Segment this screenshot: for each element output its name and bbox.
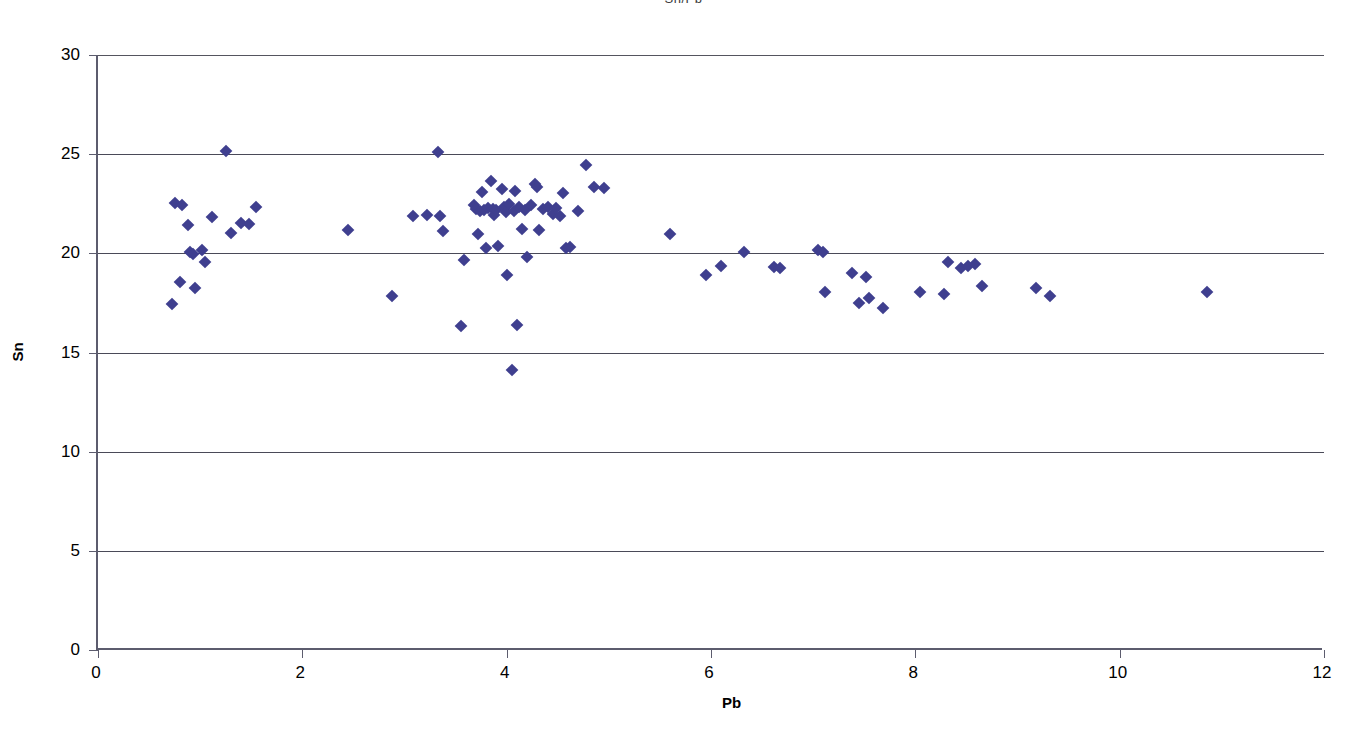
data-point — [224, 226, 237, 239]
x-tick-label-2: 2 — [270, 663, 330, 683]
y-tick-label-10: 10 — [20, 442, 80, 462]
data-point — [457, 254, 470, 267]
data-point — [774, 262, 787, 275]
gridline-y-30 — [98, 55, 1324, 56]
data-point — [876, 302, 889, 315]
gridline-y-20 — [98, 253, 1324, 254]
chart-title: Sn/Pb — [0, 0, 1367, 5]
data-point — [492, 240, 505, 253]
x-tick-12 — [1324, 650, 1325, 658]
data-point — [597, 182, 610, 195]
x-tick-4 — [507, 650, 508, 658]
data-point — [250, 200, 263, 213]
data-point — [199, 256, 212, 269]
y-tick-15 — [89, 353, 98, 354]
x-tick-label-8: 8 — [883, 663, 943, 683]
x-tick-label-10: 10 — [1088, 663, 1148, 683]
data-point — [454, 319, 467, 332]
data-point — [819, 286, 832, 299]
data-point — [556, 186, 569, 199]
data-point — [715, 260, 728, 273]
data-point — [508, 184, 521, 197]
data-point — [846, 267, 859, 280]
x-tick-8 — [915, 650, 916, 658]
data-point — [206, 210, 219, 223]
data-point — [700, 269, 713, 282]
data-point — [342, 223, 355, 236]
y-tick-20 — [89, 253, 98, 254]
data-point — [975, 280, 988, 293]
y-tick-0 — [89, 650, 98, 651]
scatter-chart: Sn/Pb Sn Pb 051015202530 024681012 — [0, 0, 1367, 749]
y-tick-5 — [89, 551, 98, 552]
x-tick-10 — [1120, 650, 1121, 658]
data-point — [511, 318, 524, 331]
data-point — [1030, 282, 1043, 295]
x-tick-label-12: 12 — [1292, 663, 1352, 683]
plot-area — [96, 55, 1322, 650]
data-point — [386, 290, 399, 303]
y-tick-label-30: 30 — [20, 45, 80, 65]
x-axis-title: Pb — [0, 694, 1367, 711]
y-tick-30 — [89, 55, 98, 56]
x-tick-2 — [302, 650, 303, 658]
gridline-y-5 — [98, 551, 1324, 552]
data-point — [434, 209, 447, 222]
data-point — [572, 204, 585, 217]
data-point — [495, 183, 508, 196]
data-point — [533, 223, 546, 236]
data-point — [421, 208, 434, 221]
y-tick-label-0: 0 — [20, 640, 80, 660]
data-point — [817, 246, 830, 259]
x-tick-label-6: 6 — [679, 663, 739, 683]
x-tick-6 — [711, 650, 712, 658]
data-point — [500, 269, 513, 282]
gridline-y-10 — [98, 452, 1324, 453]
data-point — [432, 146, 445, 159]
data-point — [1044, 290, 1057, 303]
data-point — [476, 185, 489, 198]
data-point — [580, 159, 593, 172]
x-tick-label-0: 0 — [66, 663, 126, 683]
y-tick-label-25: 25 — [20, 144, 80, 164]
data-point — [219, 145, 232, 158]
data-point — [942, 256, 955, 269]
data-point — [243, 217, 256, 230]
data-point — [938, 288, 951, 301]
data-point — [1200, 286, 1213, 299]
y-tick-label-5: 5 — [20, 541, 80, 561]
x-tick-0 — [98, 650, 99, 658]
data-point — [664, 228, 677, 241]
data-point — [437, 224, 450, 237]
data-point — [505, 364, 518, 377]
data-point — [189, 282, 202, 295]
gridline-y-15 — [98, 353, 1324, 354]
data-point — [406, 209, 419, 222]
x-tick-label-4: 4 — [475, 663, 535, 683]
data-point — [485, 175, 498, 188]
gridline-y-25 — [98, 154, 1324, 155]
data-point — [516, 222, 529, 235]
data-point — [737, 246, 750, 259]
data-point — [173, 276, 186, 289]
y-tick-10 — [89, 452, 98, 453]
y-tick-label-20: 20 — [20, 243, 80, 263]
data-point — [860, 271, 873, 284]
data-point — [182, 218, 195, 231]
y-tick-25 — [89, 154, 98, 155]
data-point — [472, 228, 485, 241]
y-tick-label-15: 15 — [20, 343, 80, 363]
data-point — [165, 298, 178, 311]
data-point — [914, 286, 927, 299]
